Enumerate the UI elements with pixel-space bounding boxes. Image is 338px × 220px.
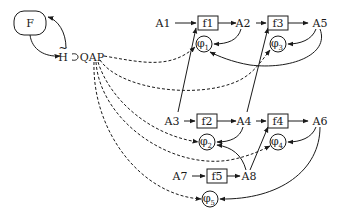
edge-A3-to-f1	[178, 28, 196, 112]
edge-A5-to-phi1	[210, 29, 322, 66]
node-phi1: φ1	[196, 36, 212, 52]
node-label: f5	[211, 170, 222, 183]
node-a6: A6	[312, 115, 328, 128]
node-label: A2	[235, 17, 251, 30]
node-f5: f5	[207, 169, 227, 183]
nodes: FH~QAPA1f1A2f3A5φ1φ3A3f2A4f4A6φ2φ4A7f5A8…	[14, 11, 327, 207]
node-a8: A8	[241, 170, 257, 183]
h-loop-connector	[72, 54, 78, 61]
edge-F-to-H	[30, 35, 60, 56]
node-label: A1	[155, 17, 171, 30]
node-label: f1	[202, 17, 213, 30]
node-f2: f2	[197, 114, 217, 128]
node-a4: A4	[236, 115, 252, 128]
tilde-accent: ~	[58, 42, 67, 55]
edge-A5-to-phi3	[288, 29, 316, 44]
node-h: H~	[58, 42, 68, 64]
node-f: F	[14, 11, 46, 35]
edge-A4-to-phi2	[217, 127, 243, 142]
node-phi4: φ4	[270, 134, 286, 150]
dashed-edge-QAP-to-phi2	[98, 62, 198, 142]
diagram-canvas: FH~QAPA1f1A2f3A5φ1φ3A3f2A4f4A6φ2φ4A7f5A8…	[0, 0, 338, 220]
node-a7: A7	[172, 170, 188, 183]
node-label: f3	[272, 17, 283, 30]
dashed-edge-QAP-to-phi3	[100, 50, 270, 90]
node-a5: A5	[312, 17, 328, 30]
edge-A4-to-f3	[247, 28, 268, 112]
node-label: A8	[241, 170, 257, 183]
node-label: A4	[236, 115, 252, 128]
node-phi3: φ3	[270, 36, 286, 52]
dashed-edge-QAP-to-phi1	[104, 47, 195, 62]
node-label: A7	[172, 170, 188, 183]
node-label: A3	[164, 115, 180, 128]
node-label: f4	[272, 115, 283, 128]
node-qap: QAP	[80, 51, 105, 64]
node-label: A6	[312, 115, 328, 128]
node-f1: f1	[198, 16, 218, 30]
node-label: QAP	[80, 51, 105, 64]
dashed-edge-QAP-to-phi4	[96, 62, 270, 161]
qap-flow-diagram: FH~QAPA1f1A2f3A5φ1φ3A3f2A4f4A6φ2φ4A7f5A8…	[0, 0, 338, 220]
node-a1: A1	[155, 17, 171, 30]
node-label: f2	[201, 115, 212, 128]
node-phi5: φ5	[202, 191, 218, 207]
node-phi2: φ2	[199, 134, 215, 150]
edge-A2-to-phi1	[214, 29, 241, 44]
node-label: A5	[312, 17, 328, 30]
node-a3: A3	[164, 115, 180, 128]
node-label: F	[26, 17, 34, 30]
node-f4: f4	[268, 114, 288, 128]
edge-A6-to-phi4	[288, 127, 316, 142]
node-a2: A2	[235, 17, 251, 30]
node-f3: f3	[268, 16, 288, 30]
